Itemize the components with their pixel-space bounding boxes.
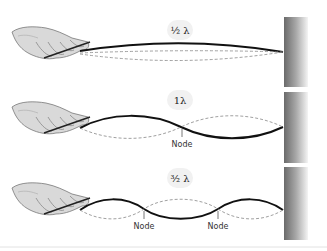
- hand-icon: [12, 183, 90, 215]
- wall-top: [284, 17, 308, 87]
- wall-middle: [284, 92, 308, 163]
- panel-3-label: ³⁄₂ λ: [167, 168, 193, 188]
- node-label: Node: [208, 222, 229, 231]
- panel-2-label: 1λ: [167, 90, 193, 110]
- hand-icon: [12, 27, 90, 59]
- node-label: Node: [172, 140, 193, 149]
- panel-1-label: ½ λ: [167, 20, 193, 40]
- node-label: Node: [134, 222, 155, 231]
- hand-icon: [12, 102, 90, 134]
- standing-wave-diagram: [0, 0, 327, 251]
- wall-bottom: [284, 167, 308, 240]
